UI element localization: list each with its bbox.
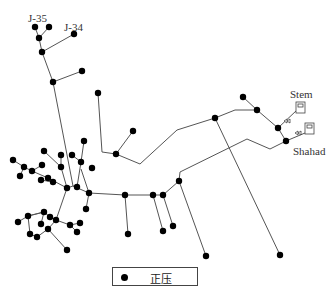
reservoir-icons: [296, 102, 314, 134]
node-label-j34: J-34: [64, 21, 83, 33]
junction-nodes: [10, 24, 289, 259]
legend-node-icon: [121, 274, 128, 281]
legend-label: 正压: [150, 270, 172, 286]
node-label-j35: J-35: [28, 12, 47, 24]
pipe-network-diagram: [0, 0, 332, 301]
reservoir-label-shahad: Shahad: [293, 145, 325, 157]
reservoir-label-stem: Stem: [290, 88, 313, 100]
valve-icons: [284, 119, 301, 135]
legend-box: 正压: [112, 267, 198, 286]
